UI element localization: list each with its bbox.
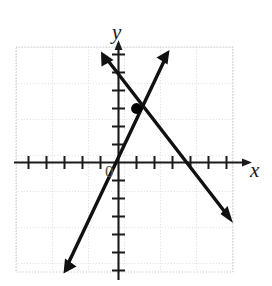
intersection-point <box>131 103 142 114</box>
y-axis-label: y <box>112 22 121 43</box>
x-axis-label: x <box>250 160 259 181</box>
coordinate-plane-svg <box>0 0 272 286</box>
origin-label: 0 <box>105 163 114 180</box>
graph-figure: y x 0 <box>0 0 272 286</box>
